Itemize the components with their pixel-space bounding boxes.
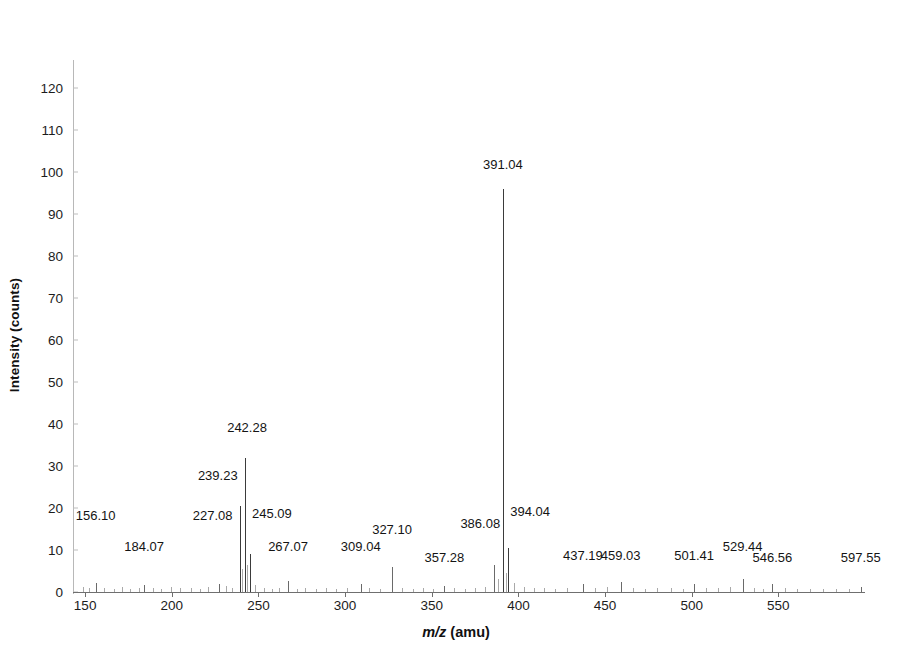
peak-label: 501.41 (674, 548, 714, 563)
spectrum-peak (288, 581, 289, 592)
x-tick-label: 350 (420, 598, 443, 613)
spectrum-peak (392, 567, 393, 592)
x-tick-label: 400 (507, 598, 530, 613)
y-tick-label: 50 (21, 375, 63, 390)
spectrum-noise-peak (506, 573, 507, 592)
y-tick-label: 10 (21, 543, 63, 558)
spectrum-noise-peak (242, 569, 243, 592)
spectrum-peak (240, 506, 241, 592)
peak-label: 184.07 (124, 539, 164, 554)
spectrum-peak (245, 458, 246, 592)
peak-label: 309.04 (341, 539, 381, 554)
plot-area (73, 67, 865, 592)
spectrum-peak (361, 584, 362, 592)
x-axis-title-plain: (amu) (446, 624, 490, 640)
spectrum-noise-peak (498, 579, 499, 592)
spectrum-peak (743, 579, 744, 592)
x-tick-mark (778, 592, 779, 597)
peak-label: 327.10 (372, 522, 412, 537)
peak-label: 394.04 (510, 504, 550, 519)
x-axis-title-italic: m/z (422, 624, 446, 640)
y-tick-label: 30 (21, 459, 63, 474)
x-tick-mark (605, 592, 606, 597)
peak-label: 267.07 (268, 539, 308, 554)
x-tick-label: 450 (594, 598, 617, 613)
peak-label: 357.28 (424, 550, 464, 565)
x-tick-label: 150 (74, 598, 97, 613)
y-tick-label: 40 (21, 417, 63, 432)
peak-label: 546.56 (752, 550, 792, 565)
x-tick-mark (518, 592, 519, 597)
y-tick-label: 110 (21, 123, 63, 138)
x-tick-mark (692, 592, 693, 597)
peak-label: 242.28 (227, 420, 267, 435)
y-tick-label: 80 (21, 249, 63, 264)
spectrum-peak (219, 584, 220, 592)
x-tick-mark (172, 592, 173, 597)
x-axis-title: m/z (amu) (0, 624, 912, 640)
spectrum-peak (144, 585, 145, 592)
spectrum-noise-peak (514, 583, 515, 592)
mass-spectrum-chart: Intensity (counts) 010203040506070809010… (0, 0, 912, 669)
peak-label: 245.09 (252, 506, 292, 521)
x-tick-mark (432, 592, 433, 597)
spectrum-peak (250, 554, 251, 592)
y-tick-label: 120 (21, 81, 63, 96)
y-tick-label: 100 (21, 165, 63, 180)
spectrum-peak (772, 584, 773, 592)
peak-label: 386.08 (460, 516, 500, 531)
y-axis-title: Intensity (counts) (7, 277, 22, 391)
x-tick-label: 250 (247, 598, 270, 613)
spectrum-peak (508, 548, 509, 592)
x-tick-label: 550 (767, 598, 790, 613)
peak-label: 437.19 (563, 548, 603, 563)
peak-label: 391.04 (483, 157, 523, 172)
y-tick-label: 60 (21, 333, 63, 348)
peak-label: 156.10 (76, 508, 116, 523)
spectrum-peak (494, 565, 495, 592)
spectrum-noise-peak (255, 585, 256, 592)
x-tick-mark (85, 592, 86, 597)
peak-label: 239.23 (198, 468, 238, 483)
spectrum-peak (503, 189, 504, 592)
x-axis-line (73, 592, 865, 593)
x-tick-label: 200 (161, 598, 184, 613)
y-tick-label: 70 (21, 291, 63, 306)
peak-label: 459.03 (601, 548, 641, 563)
x-tick-mark (345, 592, 346, 597)
spectrum-peak (694, 584, 695, 592)
spectrum-peak (621, 582, 622, 592)
peak-label: 227.08 (193, 508, 233, 523)
spectrum-noise-peak (247, 565, 248, 592)
y-tick-label: 0 (21, 585, 63, 600)
spectrum-peak (96, 583, 97, 592)
x-tick-label: 500 (680, 598, 703, 613)
y-tick-label: 20 (21, 501, 63, 516)
x-tick-mark (258, 592, 259, 597)
x-tick-label: 300 (334, 598, 357, 613)
y-tick-label: 90 (21, 207, 63, 222)
peak-label: 597.55 (841, 550, 881, 565)
spectrum-peak (583, 584, 584, 592)
